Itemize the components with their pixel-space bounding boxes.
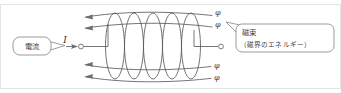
circuit-leads xyxy=(79,24,224,49)
diagram-canvas: 電流 磁束 （磁界のエネルギー） φ φ φ φ I xyxy=(0,0,341,93)
flux-line-group xyxy=(84,12,212,82)
solenoid-flux-figure: 電流 磁束 （磁界のエネルギー） φ φ φ φ I xyxy=(0,0,341,93)
phi-label-top-1: φ xyxy=(215,7,221,17)
current-symbol-label: I xyxy=(62,35,67,45)
coil-loop-5 xyxy=(182,13,201,79)
coil-loop-2 xyxy=(125,13,144,79)
flux-arrowhead-bottom-2 xyxy=(84,74,93,79)
flux-line-bottom-1 xyxy=(86,65,211,70)
flux-callout-label-line1: 磁束 xyxy=(242,28,257,37)
flux-callout: 磁束 （磁界のエネルギー） xyxy=(226,22,334,52)
left-terminal xyxy=(79,44,84,49)
flux-line-top-2 xyxy=(86,23,212,28)
phi-label-bottom-1: φ xyxy=(214,60,220,70)
phi-label-top-2: φ xyxy=(215,19,221,29)
flux-callout-label-line2: （磁界のエネルギー） xyxy=(240,40,311,49)
current-callout: 電流 xyxy=(13,37,65,55)
right-terminal xyxy=(219,44,224,49)
right-lead-wire xyxy=(194,30,218,47)
current-arrow-group xyxy=(66,44,78,49)
flux-arrowhead-top-1 xyxy=(84,15,93,20)
current-callout-label: 電流 xyxy=(25,42,40,51)
flux-arrowhead-top-2 xyxy=(84,26,93,31)
flux-line-bottom-2 xyxy=(86,77,211,82)
flux-arrowhead-bottom-1 xyxy=(84,62,93,67)
phi-label-bottom-2: φ xyxy=(214,72,220,82)
